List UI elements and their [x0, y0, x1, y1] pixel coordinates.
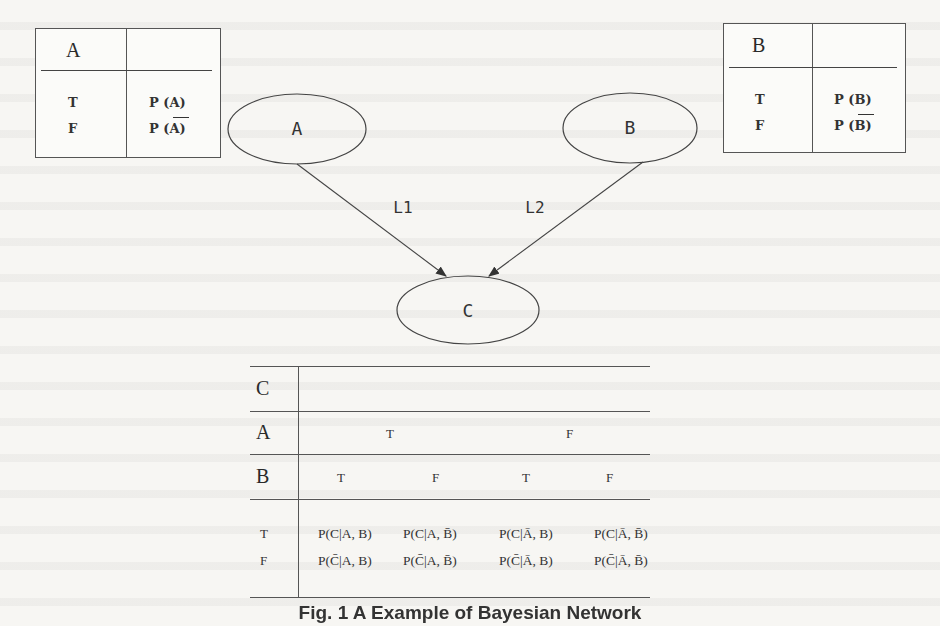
node-b: B — [563, 93, 697, 163]
cpt-row-label-a: A — [256, 421, 270, 444]
prior-table-a-state-t: T — [68, 95, 78, 110]
cpt-formula-t-3: P(C|Ā, B) — [499, 526, 553, 542]
edge-l2-label: L2 — [525, 198, 544, 217]
prior-table-b: B T F P (B) P (B) — [723, 23, 906, 153]
cpt-formula-f-3: P(C̄|Ā, B) — [499, 553, 553, 569]
cpt-formula-t-1: P(C|A, B) — [318, 526, 372, 542]
prior-table-b-state-f: F — [755, 118, 764, 133]
cpt-b-value-4: F — [606, 470, 613, 486]
prior-table-b-prob-f-text: P (B) — [834, 118, 872, 133]
prior-table-b-prob-t: P (B) — [834, 92, 872, 107]
cpt-formula-t-4: P(C|Ā, B̄) — [594, 526, 648, 542]
negation-bar — [173, 117, 189, 118]
prior-table-b-header: B — [752, 34, 765, 57]
prior-table-a-prob-f-text: P (A) — [149, 121, 186, 136]
cpt-b-value-1: T — [337, 470, 345, 486]
edge-l1: L1 — [297, 164, 446, 276]
node-a-label: A — [292, 118, 303, 139]
cpt-b-value-2: F — [432, 470, 439, 486]
edge-l1-label: L1 — [393, 198, 412, 217]
cpt-b-value-3: T — [522, 470, 530, 486]
prior-table-b-state-t: T — [755, 92, 765, 107]
node-c: C — [397, 276, 539, 344]
cpt-formula-f-2: P(C̄|A, B̄) — [403, 553, 457, 569]
prior-table-b-prob-f: P (B) — [834, 118, 872, 133]
prior-table-a-state-f: F — [68, 121, 77, 136]
cpt-row-label-c: C — [256, 377, 269, 400]
cpt-formula-f-1: P(C̄|A, B) — [318, 553, 372, 569]
cpt-a-value-t: T — [386, 426, 394, 442]
cpt-row-probabilities: T F P(C|A, B) P(C|A, B̄) P(C|Ā, B) P(C|Ā… — [250, 500, 650, 596]
cpt-row-b: B T F T F — [250, 455, 650, 500]
cpt-row-a: A T F — [250, 412, 650, 455]
node-b-label: B — [625, 117, 636, 138]
cpt-row-label-b: B — [256, 465, 269, 488]
prior-table-a-prob-t: P (A) — [149, 95, 186, 110]
node-c-label: C — [463, 300, 474, 321]
cpt-formula-t-2: P(C|A, B̄) — [403, 526, 457, 542]
negation-bar — [858, 114, 874, 115]
prior-table-a-header: A — [66, 39, 80, 62]
figure-caption: Fig. 1 A Example of Bayesian Network — [0, 602, 940, 624]
conditional-probability-table-c: C A T F B T F T F T F P(C|A, B) P(C|A, B… — [250, 366, 650, 598]
cpt-c-state-f: F — [260, 553, 267, 569]
node-a: A — [228, 94, 366, 164]
prior-table-a-prob-f: P (A) — [149, 121, 186, 136]
cpt-row-c: C — [250, 367, 650, 412]
cpt-a-value-f: F — [566, 426, 573, 442]
edge-l2: L2 — [489, 162, 643, 276]
prior-table-a: A T F P (A) P (A) — [35, 28, 221, 158]
cpt-formula-f-4: P(C̄|Ā, B̄) — [594, 553, 648, 569]
cpt-c-state-t: T — [260, 526, 268, 542]
